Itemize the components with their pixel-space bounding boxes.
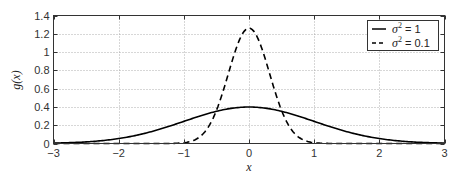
gaussian-chart: −3−2−10123 00.20.40.60.811.21.4 x g(x) σ…: [0, 0, 460, 178]
y-tick-label: 0.2: [34, 119, 49, 131]
x-tick-label: −1: [178, 147, 191, 159]
x-tick-label: 1: [311, 147, 317, 159]
legend-value: = 1: [402, 23, 421, 35]
y-tick-label: 0.4: [34, 101, 49, 113]
y-tick-labels: 00.20.40.60.811.21.4: [34, 10, 49, 150]
y-tick-label: 0: [43, 138, 49, 150]
x-tick-label: 3: [441, 147, 447, 159]
x-tick-label: 0: [246, 147, 252, 159]
x-tick-label: 2: [376, 147, 382, 159]
y-tick-label: 1.2: [34, 28, 49, 40]
legend-value: = 0.1: [402, 37, 430, 49]
legend-label-series-2: σ2 = 0.1: [392, 35, 430, 50]
x-tick-labels: −3−2−10123: [47, 147, 447, 159]
legend: σ2 = 1 σ2 = 0.1: [368, 21, 439, 51]
x-tick-label: −2: [112, 147, 125, 159]
x-axis-label: x: [245, 160, 252, 174]
y-tick-label: 1: [43, 46, 49, 58]
legend-label-series-1: σ2 = 1: [392, 21, 421, 36]
y-tick-label: 1.4: [34, 10, 49, 22]
y-axis-label: g(x): [9, 70, 23, 89]
y-tick-label: 0.6: [34, 83, 49, 95]
y-tick-label: 0.8: [34, 64, 49, 76]
solid-curve-variance-1: [54, 107, 445, 143]
